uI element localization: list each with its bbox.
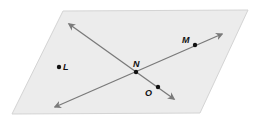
- point-label-O: O: [145, 88, 152, 98]
- plane-parallelogram: [12, 10, 248, 114]
- point-N: [134, 70, 138, 74]
- point-label-L: L: [63, 62, 69, 72]
- point-L: [57, 65, 61, 69]
- point-label-N: N: [133, 59, 140, 69]
- point-label-M: M: [182, 35, 190, 45]
- point-O: [156, 85, 160, 89]
- diagram-canvas: LMNO: [0, 0, 255, 119]
- point-M: [193, 43, 197, 47]
